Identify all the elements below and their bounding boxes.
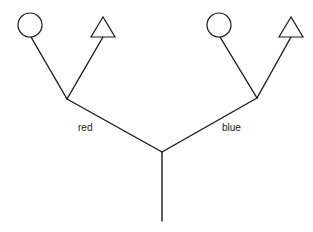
branch-label-red: red xyxy=(78,122,92,133)
tree-diagram: red blue xyxy=(0,0,313,232)
leaf-circle-right-icon xyxy=(207,13,231,37)
edge-red-circle xyxy=(31,37,67,99)
edge-blue-triangle xyxy=(257,37,291,98)
edge-red-triangle xyxy=(67,37,103,99)
leaf-circle-left-icon xyxy=(18,13,42,37)
leaf-triangle-right-icon xyxy=(279,17,303,37)
branch-blue xyxy=(162,98,257,152)
edge-blue-circle xyxy=(220,37,257,98)
leaf-triangle-left-icon xyxy=(91,17,115,37)
branch-label-blue: blue xyxy=(222,122,241,133)
